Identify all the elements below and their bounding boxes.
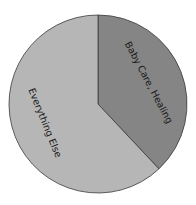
- pie-chart: Baby Care, Healing Everything Else: [0, 0, 196, 205]
